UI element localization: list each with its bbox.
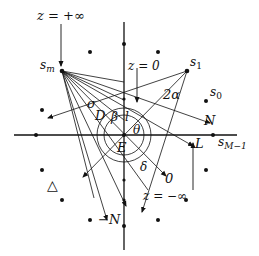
label-D: D [94, 108, 106, 123]
point-sM-1 [211, 133, 215, 137]
label-beta: β [110, 110, 118, 124]
label-z-plus-inf: z = +∞ [36, 8, 85, 23]
svg-text:sM−1: sM−1 [218, 135, 247, 151]
svg-text:s1: s1 [190, 55, 202, 71]
label-z-zero: z = 0 [127, 59, 160, 73]
label-z-minus-inf: z = −∞ [142, 189, 187, 203]
point-origin [122, 133, 126, 137]
label-N: N [203, 113, 216, 128]
triangle-symbol: △ [47, 177, 58, 193]
point-sm [60, 69, 65, 74]
label-l: l [125, 110, 129, 124]
label-delta: δ [140, 160, 147, 174]
svg-text:sm: sm [40, 58, 55, 74]
label-L: L [194, 136, 204, 151]
diagram-canvas: △ z = +∞ z = 0 z = −∞ sm s1 s0 sM−1 σ 2α… [0, 0, 259, 256]
label-E: E [116, 140, 127, 155]
label-theta: θ [133, 123, 141, 137]
label-2alpha: 2α [162, 87, 180, 102]
rays-from-sm [62, 71, 210, 220]
label-minus-N: −N [98, 212, 121, 227]
point-s0 [204, 99, 208, 103]
label-zero: 0 [165, 171, 173, 186]
svg-text:s0: s0 [210, 85, 222, 101]
point-s1 [185, 69, 190, 74]
